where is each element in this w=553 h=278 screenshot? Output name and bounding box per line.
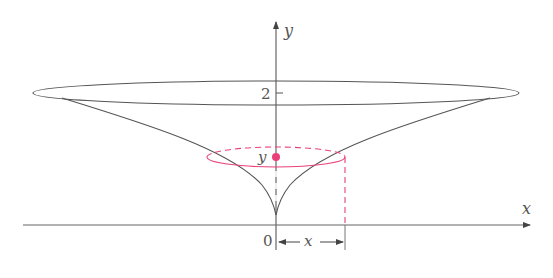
section-center-dot <box>272 153 280 161</box>
radius-label: x <box>304 232 313 250</box>
origin-label: 0 <box>263 232 273 250</box>
section-height-label: y <box>257 148 267 166</box>
profile-curve-right <box>276 98 490 215</box>
x-axis-label: x <box>522 199 531 218</box>
profile-curve-left <box>62 98 276 215</box>
solid-of-revolution-diagram: 2 y x y 0 x <box>0 0 553 278</box>
y-axis-label: y <box>283 21 294 40</box>
y-tick-2-label: 2 <box>261 85 271 103</box>
